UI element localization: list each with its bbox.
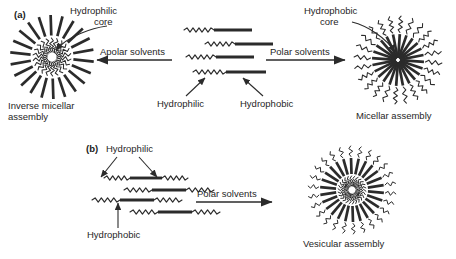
hydrophilic-monomer-label-b: Hydrophilic	[106, 143, 153, 154]
hydrophilic-monomer-pointer-a	[186, 78, 205, 96]
hydrophobic-core-label-line1: Hydrophobic	[304, 5, 357, 16]
hydrophobic-monomer-label-b: Hydrophobic	[87, 229, 140, 240]
hydrophilic-monomer-label-a: Hydrophilic	[157, 98, 204, 109]
figure-vector-layer	[0, 0, 456, 259]
polar-solvents-label-a: Polar solvents	[270, 46, 330, 57]
hydrophilic-pointer-b-right	[139, 157, 157, 177]
hydrophobic-monomer-label-a: Hydrophobic	[240, 98, 293, 109]
hydrophilic-core-label-line2: core	[94, 16, 112, 27]
hydrophilic-pointer-b-left	[101, 157, 117, 177]
micellar-assembly-graphic	[354, 16, 442, 104]
vesicular-assembly-graphic	[308, 146, 396, 234]
inverse-micellar-assembly-label-line1: Inverse micellar	[8, 100, 75, 111]
inverse-micellar-assembly-graphic	[10, 15, 93, 99]
figure-canvas: (a)	[0, 0, 456, 259]
panel-b-tag: (b)	[86, 143, 98, 154]
polar-solvents-label-b: Polar solvents	[197, 188, 257, 199]
hydrophilic-core-label-line1: Hydrophilic	[70, 5, 117, 16]
vesicular-assembly-label: Vesicular assembly	[303, 238, 384, 249]
micellar-assembly-label: Micellar assembly	[356, 110, 432, 121]
amphiphile-monomers-panel-a	[184, 28, 273, 74]
apolar-solvents-label: Apolar solvents	[100, 46, 165, 57]
hydrophobic-core-label-line2: core	[320, 16, 338, 27]
inverse-micellar-assembly-label-line2: assembly	[8, 111, 48, 122]
hydrophobic-monomer-pointer-a	[243, 78, 263, 96]
